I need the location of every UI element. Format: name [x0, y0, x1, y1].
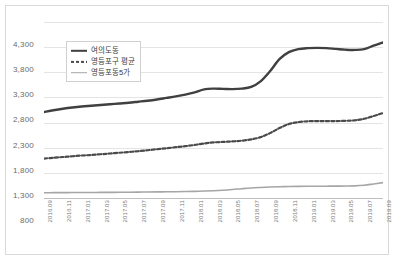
y-axis-tick-label: 3,800: [13, 65, 34, 74]
x-axis-tick-label: 2019.03: [330, 200, 336, 222]
legend-swatch-line-icon: [71, 46, 87, 55]
x-axis-tick-label: 2017.11: [179, 200, 185, 222]
x-axis-tick-label: 2018.11: [292, 200, 298, 222]
y-axis-labels: 4,3003,8003,3002,8002,3001,8001,300800: [0, 22, 40, 198]
y-axis-tick-label: 3,300: [13, 90, 34, 99]
y-axis-tick-label: 1,800: [13, 165, 34, 174]
legend-swatch-line-gray-icon: [71, 68, 87, 77]
x-axis-line: [44, 198, 383, 199]
y-axis-tick-label: 800: [20, 216, 34, 225]
x-axis-tick-label: 2019.01: [311, 200, 317, 222]
chart-screenshot: 4,3003,8003,3002,8002,3001,8001,300800 2…: [0, 0, 394, 260]
x-axis-tick-label: 2016.09: [47, 200, 53, 222]
legend-item-0: 여의도동: [71, 45, 135, 56]
x-axis-tick-label: 2019.09: [386, 200, 392, 222]
y-axis-tick-label: 2,800: [13, 115, 34, 124]
chart-legend: 여의도동 영등포구 평균 영등포동5가: [66, 41, 141, 82]
x-axis-tick-label: 2018.01: [198, 200, 204, 222]
legend-label: 여의도동: [91, 46, 119, 55]
x-axis-tick-label: 2019.05: [348, 200, 354, 222]
series-line-2: [44, 183, 383, 193]
y-axis-tick-label: 2,300: [13, 140, 34, 149]
series-line-1: [44, 113, 383, 159]
x-axis-tick-label: 2017.09: [160, 200, 166, 222]
x-axis-tick-label: 2018.03: [217, 200, 223, 222]
x-axis-tick-label: 2017.07: [141, 200, 147, 222]
legend-label: 영등포구 평균: [91, 57, 135, 66]
x-axis-tick-label: 2016.11: [66, 200, 72, 222]
y-axis-tick-label: 4,300: [13, 40, 34, 49]
legend-item-1: 영등포구 평균: [71, 56, 135, 67]
x-axis-tick-label: 2018.09: [273, 200, 279, 222]
x-axis-tick-label: 2018.07: [254, 200, 260, 222]
x-axis-tick-label: 2017.05: [122, 200, 128, 222]
x-axis-tick-label: 2019.07: [367, 200, 373, 222]
x-axis-tick-label: 2018.05: [235, 200, 241, 222]
x-axis-tick-label: 2017.01: [85, 200, 91, 222]
legend-swatch-dotted-icon: [71, 57, 87, 66]
x-axis-tick-label: 2017.03: [104, 200, 110, 222]
legend-item-2: 영등포동5가: [71, 67, 135, 78]
x-axis-labels: 2016.092016.112017.012017.032017.052017.…: [44, 200, 383, 244]
legend-label: 영등포동5가: [91, 68, 130, 77]
y-axis-tick-label: 1,300: [13, 190, 34, 199]
